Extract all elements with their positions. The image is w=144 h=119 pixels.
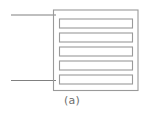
finger-bar-5 — [60, 75, 133, 84]
finger-bar-4 — [60, 61, 133, 70]
finger-bars-group — [60, 19, 133, 84]
figure-caption: (a) — [0, 94, 144, 108]
device-outer-boundary — [54, 10, 139, 91]
finger-bar-3 — [60, 47, 133, 56]
figure-container: (a) — [0, 0, 144, 119]
finger-bar-1 — [60, 19, 133, 28]
lead-wires-group — [11, 15, 56, 81]
finger-bar-2 — [60, 33, 133, 42]
